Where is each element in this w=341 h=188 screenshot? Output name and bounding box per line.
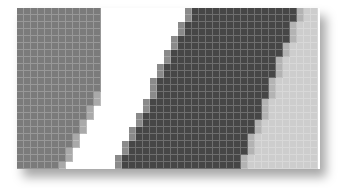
- pixel-cell: [52, 71, 59, 78]
- pixel-cell: [220, 148, 227, 155]
- pixel-cell: [80, 162, 87, 169]
- pixel-cell: [290, 141, 297, 148]
- pixel-cell: [157, 78, 164, 85]
- pixel-cell: [45, 43, 52, 50]
- pixel-cell: [185, 64, 192, 71]
- pixel-cell: [248, 22, 255, 29]
- pixel-cell: [150, 15, 157, 22]
- pixel-cell: [101, 99, 108, 106]
- pixel-cell: [52, 22, 59, 29]
- pixel-cell: [150, 113, 157, 120]
- pixel-cell: [192, 64, 199, 71]
- pixel-cell: [115, 43, 122, 50]
- pixel-cell: [227, 15, 234, 22]
- pixel-cell: [311, 155, 318, 162]
- pixel-cell: [136, 134, 143, 141]
- pixel-cell: [227, 113, 234, 120]
- pixel-cell: [52, 155, 59, 162]
- pixel-cell: [45, 141, 52, 148]
- pixel-cell: [66, 85, 73, 92]
- pixel-cell: [234, 162, 241, 169]
- pixel-cell: [199, 134, 206, 141]
- pixel-cell: [185, 29, 192, 36]
- pixel-cell: [297, 8, 304, 15]
- pixel-cell: [290, 64, 297, 71]
- pixel-cell: [269, 134, 276, 141]
- pixel-cell: [248, 99, 255, 106]
- pixel-cell: [136, 113, 143, 120]
- pixel-cell: [129, 15, 136, 22]
- pixel-cell: [290, 85, 297, 92]
- pixel-cell: [101, 148, 108, 155]
- pixel-cell: [80, 57, 87, 64]
- pixel-cell: [213, 162, 220, 169]
- pixel-cell: [220, 113, 227, 120]
- pixel-cell: [52, 8, 59, 15]
- pixel-cell: [241, 127, 248, 134]
- pixel-cell: [248, 36, 255, 43]
- pixel-cell: [101, 127, 108, 134]
- pixel-cell: [297, 113, 304, 120]
- pixel-cell: [234, 43, 241, 50]
- pixel-cell: [59, 162, 66, 169]
- pixel-cell: [213, 57, 220, 64]
- pixel-cell: [52, 162, 59, 169]
- pixel-cell: [227, 134, 234, 141]
- pixel-cell: [171, 162, 178, 169]
- pixel-cell: [129, 22, 136, 29]
- pixel-cell: [311, 50, 318, 57]
- pixel-cell: [122, 141, 129, 148]
- pixel-cell: [192, 99, 199, 106]
- pixel-cell: [66, 148, 73, 155]
- pixel-cell: [206, 120, 213, 127]
- pixel-cell: [143, 43, 150, 50]
- pixel-cell: [234, 57, 241, 64]
- pixel-cell: [241, 99, 248, 106]
- pixel-cell: [311, 113, 318, 120]
- pixel-cell: [234, 85, 241, 92]
- pixel-cell: [178, 113, 185, 120]
- pixel-cell: [164, 162, 171, 169]
- pixel-cell: [171, 155, 178, 162]
- pixel-cell: [87, 43, 94, 50]
- pixel-cell: [297, 57, 304, 64]
- pixel-cell: [304, 134, 311, 141]
- pixel-cell: [122, 64, 129, 71]
- pixel-cell: [304, 120, 311, 127]
- pixel-cell: [59, 29, 66, 36]
- pixel-cell: [206, 127, 213, 134]
- pixel-cell: [171, 106, 178, 113]
- pixel-cell: [45, 127, 52, 134]
- pixel-cell: [192, 141, 199, 148]
- pixel-cell: [206, 134, 213, 141]
- pixel-cell: [73, 162, 80, 169]
- pixel-cell: [227, 92, 234, 99]
- pixel-cell: [276, 64, 283, 71]
- pixel-cell: [304, 127, 311, 134]
- pixel-cell: [199, 8, 206, 15]
- pixel-cell: [73, 36, 80, 43]
- pixel-cell: [227, 155, 234, 162]
- pixel-cell: [185, 57, 192, 64]
- pixel-cell: [304, 78, 311, 85]
- pixel-cell: [52, 78, 59, 85]
- pixel-cell: [269, 127, 276, 134]
- pixel-cell: [290, 120, 297, 127]
- pixel-cell: [171, 15, 178, 22]
- pixel-cell: [297, 99, 304, 106]
- pixel-cell: [136, 64, 143, 71]
- pixel-cell: [59, 64, 66, 71]
- pixel-cell: [255, 15, 262, 22]
- pixel-cell: [262, 92, 269, 99]
- pixel-cell: [108, 36, 115, 43]
- pixel-cell: [157, 57, 164, 64]
- pixel-cell: [269, 120, 276, 127]
- pixel-cell: [80, 71, 87, 78]
- pixel-cell: [136, 71, 143, 78]
- pixel-cell: [143, 162, 150, 169]
- pixel-cell: [129, 64, 136, 71]
- pixel-cell: [52, 106, 59, 113]
- pixel-cell: [220, 85, 227, 92]
- pixel-cell: [192, 50, 199, 57]
- pixel-cell: [227, 148, 234, 155]
